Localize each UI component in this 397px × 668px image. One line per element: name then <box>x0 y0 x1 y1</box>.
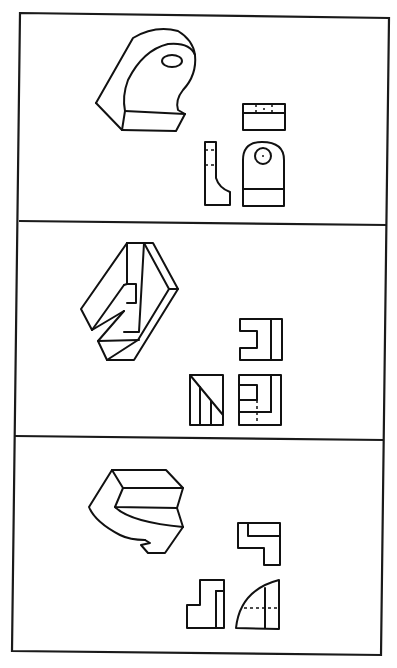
divider-2 <box>15 436 384 440</box>
panel-2 <box>81 243 282 425</box>
panel-2-top-view <box>240 319 282 360</box>
panel-1-side-view <box>205 142 230 205</box>
outer-frame <box>12 13 389 655</box>
panel-2-side-view <box>190 375 223 425</box>
panel-2-isometric <box>81 243 178 360</box>
panel-2-front-view <box>239 375 281 425</box>
panel-3-side-view <box>187 580 224 628</box>
drawing-canvas <box>0 0 397 668</box>
panel-1 <box>96 29 285 206</box>
panel-1-front-view <box>243 142 284 206</box>
technical-drawing-sheet <box>0 0 397 668</box>
panel-3-top-view <box>238 523 280 565</box>
panel-3-isometric <box>89 470 183 553</box>
panel-1-isometric <box>96 29 195 131</box>
panel-3-front-view <box>236 580 279 629</box>
panel-3 <box>89 470 280 629</box>
panel-1-top-view <box>243 104 285 130</box>
hole-icon <box>162 55 182 67</box>
divider-1 <box>19 221 387 225</box>
